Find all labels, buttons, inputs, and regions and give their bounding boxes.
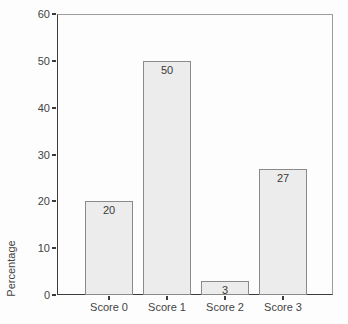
y-tick-label: 50 — [20, 55, 50, 66]
y-axis-tick — [52, 247, 56, 249]
bar-score-3 — [259, 169, 307, 295]
x-tick-label: Score 2 — [206, 302, 244, 313]
y-tick-label: 30 — [20, 149, 50, 160]
y-tick-label: 60 — [20, 9, 50, 20]
y-axis-tick — [52, 294, 56, 296]
x-axis-tick — [224, 296, 226, 300]
x-tick-label: Score 1 — [148, 302, 186, 313]
bar-value-label: 27 — [277, 173, 289, 184]
y-tick-label: 10 — [20, 243, 50, 254]
x-axis-tick — [108, 296, 110, 300]
y-axis-tick — [52, 60, 56, 62]
y-tick-label: 0 — [20, 290, 50, 301]
y-axis-title: Percentage — [5, 233, 18, 305]
y-tick-label: 40 — [20, 102, 50, 113]
x-axis-tick — [282, 296, 284, 300]
x-axis-tick — [166, 296, 168, 300]
bar-chart-figure: Percentage 010203040506020Score 050Score… — [0, 0, 348, 324]
y-axis-tick — [52, 154, 56, 156]
y-tick-label: 20 — [20, 196, 50, 207]
y-axis-tick — [52, 107, 56, 109]
y-axis-tick — [52, 13, 56, 15]
bar-value-label: 3 — [222, 285, 228, 296]
bar-value-label: 50 — [161, 65, 173, 76]
bar-value-label: 20 — [103, 205, 115, 216]
x-tick-label: Score 3 — [264, 302, 302, 313]
x-tick-label: Score 0 — [90, 302, 128, 313]
y-axis-tick — [52, 200, 56, 202]
bar-score-1 — [143, 61, 191, 295]
